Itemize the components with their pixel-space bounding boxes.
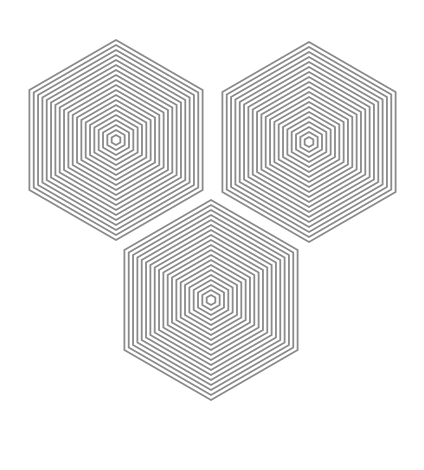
concentric-hexagons-figure xyxy=(0,0,424,470)
